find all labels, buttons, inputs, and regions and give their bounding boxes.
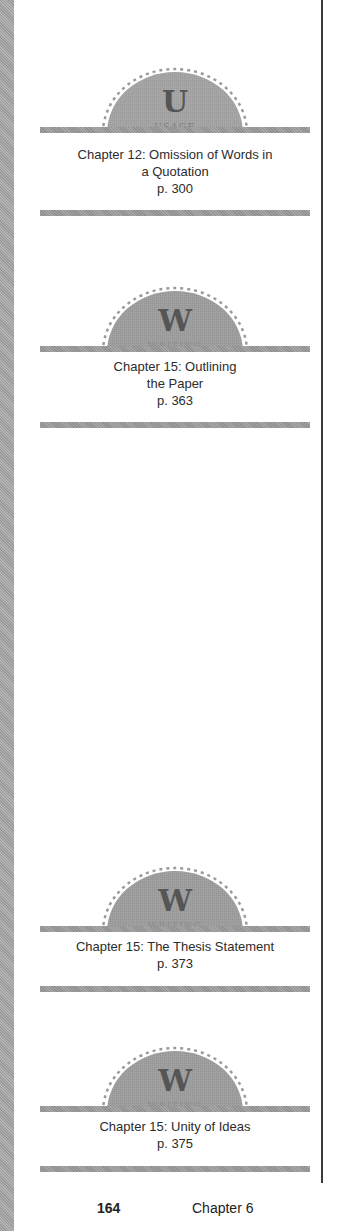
- divider-bar: [40, 346, 310, 352]
- svg-text:W: W: [157, 303, 193, 338]
- divider-bar: [40, 127, 310, 133]
- divider-bar: [40, 926, 310, 932]
- reference-caption: Chapter 12: Omission of Words in a Quota…: [40, 146, 310, 197]
- page-number: 164: [97, 1200, 120, 1216]
- reference-caption: Chapter 15: The Thesis Statement p. 373: [40, 938, 310, 972]
- reference-title-line-1: Chapter 15: Unity of Ideas: [40, 1118, 310, 1135]
- usage-badge-icon: U USAGE: [40, 62, 310, 132]
- reference-title-line-1: Chapter 15: The Thesis Statement: [40, 938, 310, 955]
- writing-badge-icon: W WRITING: [40, 281, 310, 351]
- reference-caption: Chapter 15: Unity of Ideas p. 375: [40, 1118, 310, 1152]
- reference-caption: Chapter 15: Outlining the Paper p. 363: [40, 358, 310, 409]
- divider-bar: [40, 1166, 310, 1172]
- divider-bar: [40, 986, 310, 992]
- reference-title-line-1: Chapter 12: Omission of Words in: [40, 146, 310, 163]
- reference-page: p. 375: [40, 1135, 310, 1152]
- column-rule: [321, 0, 323, 1183]
- divider-bar: [40, 422, 310, 428]
- reference-page: p. 373: [40, 955, 310, 972]
- writing-badge-icon: W WRITING: [40, 861, 310, 931]
- reference-page: p. 300: [40, 180, 310, 197]
- divider-bar: [40, 210, 310, 216]
- svg-text:W: W: [157, 883, 193, 918]
- reference-title-line-2: the Paper: [40, 375, 310, 392]
- svg-text:W: W: [157, 1063, 193, 1098]
- divider-bar: [40, 1106, 310, 1112]
- svg-text:U: U: [162, 84, 188, 119]
- running-footer-chapter: Chapter 6: [192, 1200, 253, 1216]
- reference-title-line-1: Chapter 15: Outlining: [40, 358, 310, 375]
- margin-strip: [0, 0, 14, 1231]
- reference-page: p. 363: [40, 392, 310, 409]
- writing-badge-icon: W WRITING: [40, 1041, 310, 1111]
- reference-title-line-2: a Quotation: [40, 163, 310, 180]
